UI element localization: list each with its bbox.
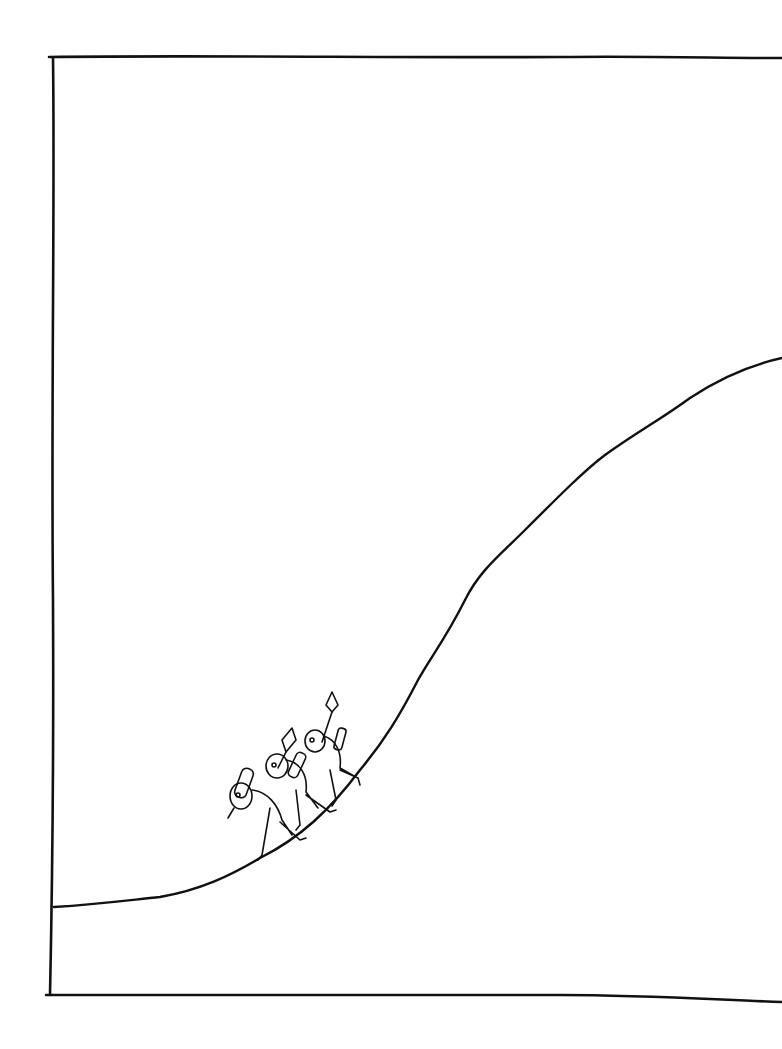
figure-head xyxy=(230,783,252,809)
figure-arm xyxy=(228,808,234,818)
climbing-figures xyxy=(228,692,360,860)
carried-tool xyxy=(333,727,346,750)
figure-eye xyxy=(310,738,314,742)
hill-curve xyxy=(54,358,782,907)
figure-eye xyxy=(272,763,276,767)
figure-body xyxy=(286,760,336,830)
frame-top xyxy=(49,56,782,58)
frame-bottom xyxy=(46,995,782,1002)
figure-3 xyxy=(305,692,360,806)
shovel-icon xyxy=(326,692,338,712)
frame-left xyxy=(50,58,54,995)
figure-1 xyxy=(228,767,306,860)
drawing xyxy=(0,0,782,1049)
shovel-icon xyxy=(282,728,296,752)
figure-eye xyxy=(236,793,240,797)
frame xyxy=(46,56,782,1002)
figure-head xyxy=(266,754,288,778)
illustration-canvas xyxy=(0,0,782,1049)
